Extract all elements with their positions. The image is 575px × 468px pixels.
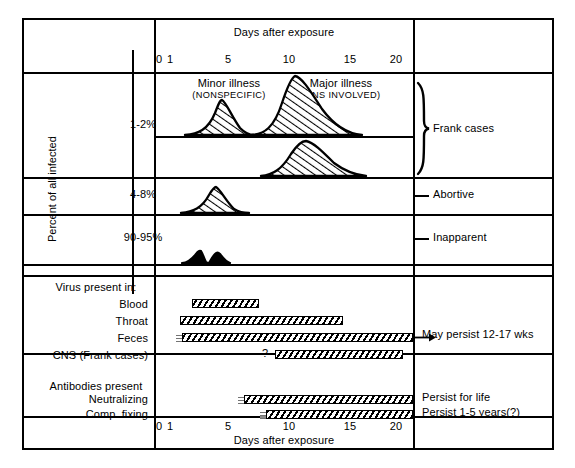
frank-cases-brace bbox=[415, 81, 431, 176]
virus-section-heading: Virus present in: bbox=[56, 281, 137, 294]
antibody-note-neutralizing: Persist for life bbox=[422, 391, 490, 404]
inapparent-leader-line bbox=[413, 238, 429, 240]
outcome-inapparent: Inapparent bbox=[433, 231, 487, 244]
virus-cns-question-mark: ? bbox=[262, 347, 268, 360]
virus-persist-note: May persist 12-17 wks bbox=[422, 328, 534, 341]
virus-row-label-feces: Feces bbox=[118, 332, 148, 345]
virus-row-label-throat: Throat bbox=[116, 315, 148, 328]
axis-bottom-title: Days after exposure bbox=[234, 434, 334, 447]
virus-row-label-cns: CNS (Frank cases) bbox=[53, 349, 148, 362]
abortive-leader-line bbox=[413, 195, 429, 197]
curve-minor-illness bbox=[154, 20, 413, 136]
outcome-frank-cases: Frank cases bbox=[433, 122, 494, 135]
antibody-note-comp-fixing: Persist 1-5 years(?) bbox=[422, 406, 520, 419]
antibody-bar-neutralizing bbox=[244, 395, 413, 404]
axis-bottom-tick-0: 0 bbox=[156, 420, 162, 433]
antibody-row-label-comp-fixing: Comp. fixing bbox=[86, 408, 148, 421]
virus-row-label-blood: Blood bbox=[119, 298, 148, 311]
antibody-bar-comp-fixing bbox=[266, 410, 413, 419]
axis-bottom-tick-20: 20 bbox=[390, 420, 402, 433]
divider-left-column bbox=[132, 50, 134, 294]
virus-bar-throat bbox=[180, 316, 343, 325]
virus-bar-cns bbox=[275, 350, 403, 359]
virus-bar-feces bbox=[182, 333, 413, 342]
axis-bottom-tick-5: 5 bbox=[225, 420, 231, 433]
axis-bottom-tick-1: 1 bbox=[167, 420, 173, 433]
axis-bottom-tick-10: 10 bbox=[283, 420, 295, 433]
antibody-row-label-neutralizing: Neutralizing bbox=[89, 393, 148, 406]
row-divider-inapparent-bottom bbox=[24, 264, 553, 266]
virus-bar-blood bbox=[192, 299, 259, 308]
percent-value-abortive: 4-8% bbox=[130, 188, 156, 201]
percent-value-frank: 1-2% bbox=[130, 118, 156, 131]
curve-abortive bbox=[154, 177, 413, 214]
curve-major-illness-lower bbox=[154, 136, 413, 177]
antibody-section-heading: Antibodies present bbox=[50, 380, 143, 393]
left-axis-label: Percent of all infected bbox=[46, 136, 58, 242]
polio-pathogenesis-diagram: Days after exposure 0 1 5 10 15 20 Perce… bbox=[22, 18, 554, 450]
row-divider-virus-top bbox=[24, 275, 553, 277]
divider-virus-label bbox=[154, 294, 156, 371]
outcome-abortive: Abortive bbox=[433, 188, 474, 201]
axis-bottom-tick-15: 15 bbox=[344, 420, 356, 433]
curve-inapparent bbox=[154, 214, 413, 264]
